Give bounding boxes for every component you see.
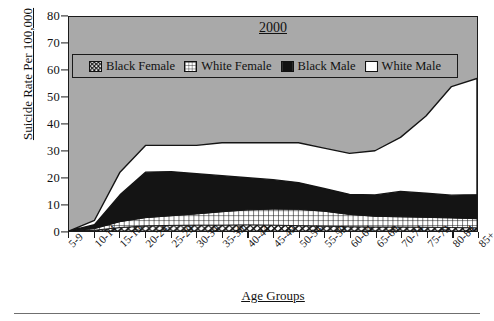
y-tick-label: 50 <box>14 90 60 105</box>
bottom-divider <box>14 313 480 314</box>
y-tick-label: 40 <box>14 117 60 132</box>
plot-area <box>68 16 478 232</box>
y-tick-mark <box>61 150 68 151</box>
y-axis: Suicide Rate Per 100,000 010203040506070… <box>0 0 68 248</box>
chart-legend: Black FemaleWhite FemaleBlack MaleWhite … <box>72 54 458 78</box>
y-tick-label: 80 <box>14 9 60 24</box>
y-tick-mark <box>61 204 68 205</box>
y-tick-mark <box>61 231 68 232</box>
legend-label: Black Male <box>298 59 356 74</box>
y-tick-mark <box>61 123 68 124</box>
legend-label: White Female <box>201 59 271 74</box>
y-tick-mark <box>61 42 68 43</box>
y-tick-label: 0 <box>14 225 60 240</box>
x-axis-title: Age Groups <box>68 288 478 304</box>
chart-title-text: 2000 <box>259 20 287 35</box>
legend-item: Black Male <box>281 59 356 74</box>
y-tick-mark <box>61 15 68 16</box>
y-tick-label: 20 <box>14 171 60 186</box>
legend-item: White Male <box>365 59 441 74</box>
legend-item: Black Female <box>89 59 175 74</box>
y-tick-label: 10 <box>14 198 60 213</box>
legend-label: Black Female <box>106 59 175 74</box>
diagonal-hatch-swatch <box>89 61 102 72</box>
y-tick-label: 30 <box>14 144 60 159</box>
solid-white-swatch <box>365 61 378 72</box>
y-tick-mark <box>61 69 68 70</box>
x-axis: 5-910-1415-1920-2425-2930-3435-3940-4445… <box>68 232 478 294</box>
grid-hatch-swatch <box>184 61 197 72</box>
y-tick-mark <box>61 177 68 178</box>
solid-black-swatch <box>281 61 294 72</box>
y-tick-label: 60 <box>14 63 60 78</box>
stacked-area-chart <box>69 17 477 231</box>
legend-label: White Male <box>382 59 441 74</box>
legend-item: White Female <box>184 59 271 74</box>
y-tick-mark <box>61 96 68 97</box>
y-tick-label: 70 <box>14 36 60 51</box>
x-axis-title-text: Age Groups <box>241 288 304 303</box>
chart-title: 2000 <box>68 20 478 36</box>
